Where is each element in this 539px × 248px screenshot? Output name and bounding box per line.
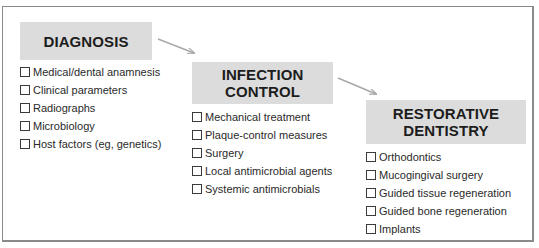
list-item: Microbiology — [20, 117, 161, 135]
checkbox-icon — [20, 121, 30, 131]
list-item-label: Orthodontics — [379, 148, 441, 166]
list-item: Implants — [366, 220, 511, 238]
diagnosis-list: Medical/dental anamnesis Clinical parame… — [20, 63, 161, 153]
list-item-label: Radiographs — [33, 99, 95, 117]
list-item-label: Host factors (eg, genetics) — [33, 135, 161, 153]
list-item-label: Plaque-control measures — [205, 126, 327, 144]
list-item: Surgery — [192, 144, 332, 162]
checkbox-icon — [366, 224, 376, 234]
list-item-label: Guided bone regeneration — [379, 202, 507, 220]
list-item: Guided bone regeneration — [366, 202, 511, 220]
checkbox-icon — [20, 139, 30, 149]
checkbox-icon — [192, 130, 202, 140]
list-item: Guided tissue regeneration — [366, 184, 511, 202]
restorative-dentistry-header: RESTORATIVE DENTISTRY — [366, 100, 526, 144]
arrow-infection-control-to-restorative — [338, 78, 376, 94]
list-item-label: Local antimicrobial agents — [205, 162, 332, 180]
list-item-label: Mucogingival surgery — [379, 166, 483, 184]
infection-control-title-line-1: INFECTION — [222, 66, 304, 83]
checkbox-icon — [192, 184, 202, 194]
list-item: Host factors (eg, genetics) — [20, 135, 161, 153]
checkbox-icon — [366, 170, 376, 180]
list-item: Mechanical treatment — [192, 108, 332, 126]
list-item-label: Systemic antimicrobials — [205, 180, 320, 198]
arrow-diagnosis-to-infection-control — [158, 39, 194, 53]
restorative-dentistry-list: Orthodontics Mucogingival surgery Guided… — [366, 148, 511, 238]
checkbox-icon — [192, 166, 202, 176]
list-item: Mucogingival surgery — [366, 166, 511, 184]
list-item-label: Guided tissue regeneration — [379, 184, 511, 202]
infection-control-header: INFECTION CONTROL — [192, 62, 333, 104]
infection-control-list: Mechanical treatment Plaque-control meas… — [192, 108, 332, 198]
checkbox-icon — [20, 67, 30, 77]
list-item: Orthodontics — [366, 148, 511, 166]
checkbox-icon — [366, 152, 376, 162]
list-item-label: Mechanical treatment — [205, 108, 310, 126]
checkbox-icon — [20, 103, 30, 113]
list-item-label: Medical/dental anamnesis — [33, 63, 160, 81]
list-item: Plaque-control measures — [192, 126, 332, 144]
list-item: Medical/dental anamnesis — [20, 63, 161, 81]
restorative-title-line-2: DENTISTRY — [393, 122, 499, 139]
list-item-label: Surgery — [205, 144, 244, 162]
checkbox-icon — [192, 112, 202, 122]
diagnosis-header: DIAGNOSIS — [20, 22, 152, 60]
list-item: Radiographs — [20, 99, 161, 117]
flow-diagram: DIAGNOSIS Medical/dental anamnesis Clini… — [0, 0, 539, 248]
list-item-label: Implants — [379, 220, 421, 238]
list-item: Local antimicrobial agents — [192, 162, 332, 180]
checkbox-icon — [20, 85, 30, 95]
checkbox-icon — [366, 206, 376, 216]
list-item: Clinical parameters — [20, 81, 161, 99]
diagnosis-title: DIAGNOSIS — [43, 33, 128, 50]
checkbox-icon — [192, 148, 202, 158]
list-item-label: Microbiology — [33, 117, 95, 135]
checkbox-icon — [366, 188, 376, 198]
restorative-title-line-1: RESTORATIVE — [393, 105, 499, 122]
list-item: Systemic antimicrobials — [192, 180, 332, 198]
infection-control-title-line-2: CONTROL — [222, 83, 304, 100]
list-item-label: Clinical parameters — [33, 81, 127, 99]
